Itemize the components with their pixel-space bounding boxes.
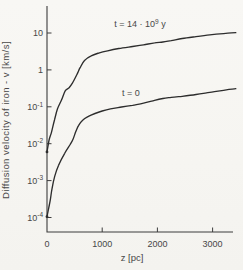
x-tick-label: 1000 — [92, 239, 112, 249]
chart-svg: 10110-110-210-310-40100020003000z [pc]Di… — [0, 0, 243, 270]
series-label: t = 0 — [122, 88, 140, 98]
y-tick-label: 10-2 — [27, 137, 43, 149]
curve-t0 — [47, 89, 236, 217]
y-tick-label: 10-4 — [27, 211, 43, 223]
curve-start-blob — [46, 150, 49, 153]
y-tick-label: 10-1 — [27, 101, 43, 113]
y-tick-label: 10 — [33, 28, 43, 38]
axis-frame — [47, 6, 233, 232]
scanned-chart-figure: 10110-110-210-310-40100020003000z [pc]Di… — [0, 0, 243, 270]
y-axis-title: Diffusion velocity of iron - v [km/s] — [0, 41, 11, 199]
x-tick-label: 2000 — [147, 239, 167, 249]
curve-start-blob — [46, 215, 49, 218]
y-tick-label: 10-3 — [27, 174, 43, 186]
y-tick-label: 1 — [38, 65, 43, 75]
x-tick-label: 3000 — [203, 239, 223, 249]
series-label: t = 14 · 109 y — [114, 18, 166, 30]
x-axis-title: z [pc] — [121, 252, 144, 263]
x-tick-label: 0 — [44, 239, 49, 249]
